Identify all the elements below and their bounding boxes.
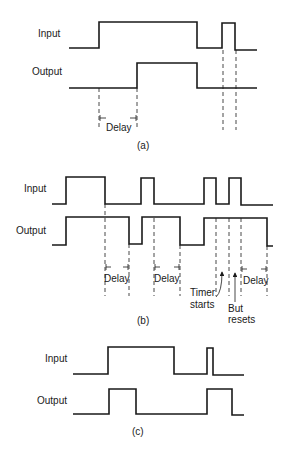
output-label: Output <box>37 395 67 406</box>
input-label: Input <box>24 183 46 194</box>
input-waveform <box>52 177 273 205</box>
timer-starts-label: Timer <box>190 287 216 298</box>
caption-a: (a) <box>137 140 149 151</box>
output-label: Output <box>16 225 46 236</box>
input-label: Input <box>45 353 67 364</box>
panel-b: Input Output Delay Delay Delay Timer <box>16 177 273 326</box>
output-waveform <box>73 389 244 415</box>
output-waveform <box>69 63 257 88</box>
but-resets-label: But <box>228 303 243 314</box>
caption-b: (b) <box>137 315 149 326</box>
caption-c: (c) <box>132 426 144 437</box>
delay-label: Delay <box>243 275 269 286</box>
output-waveform <box>52 217 273 246</box>
timer-starts-label-2: starts <box>190 299 214 310</box>
input-label: Input <box>38 28 60 39</box>
delay-label: Delay <box>154 273 180 284</box>
input-waveform <box>73 347 244 375</box>
panel-a: Input Output Delay (a) <box>32 22 257 151</box>
delay-label: Delay <box>106 122 132 133</box>
output-label: Output <box>32 66 62 77</box>
delay-label: Delay <box>104 273 130 284</box>
panel-c: Input Output (c) <box>37 347 244 437</box>
timing-diagrams: Input Output Delay (a) Input Output <box>0 0 294 451</box>
but-resets-label-2: resets <box>228 314 255 325</box>
timer-starts-arrow <box>216 272 222 297</box>
input-waveform <box>69 22 257 50</box>
